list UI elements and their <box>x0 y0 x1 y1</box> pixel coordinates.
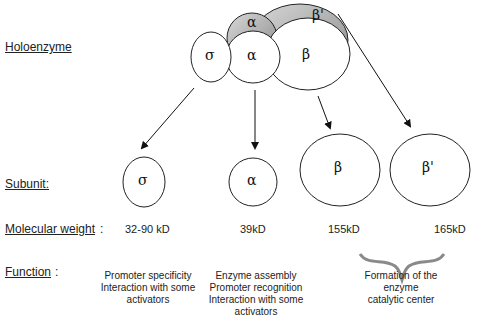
subunit-shapes <box>123 134 470 207</box>
holo-sigma-label: σ <box>205 47 215 63</box>
subunit-sigma-label: σ <box>138 172 148 188</box>
subunit-alpha-label: α <box>247 172 256 188</box>
function-alpha: Enzyme assembly Promoter recognition Int… <box>200 270 312 318</box>
weight-beta: 155kD <box>328 223 360 235</box>
arrow-sigma <box>142 88 194 148</box>
weight-sigma: 32-90 kD <box>125 223 170 235</box>
row-label-function-colon: : <box>55 265 58 279</box>
subunit-beta-prime-label: β' <box>422 159 434 175</box>
row-label-molecular-weight: Molecular weight <box>5 222 95 236</box>
function-beta-beta-prime: Formation of the enzyme catalytic center <box>345 270 457 306</box>
holo-beta-prime-label: β' <box>312 7 324 23</box>
arrow-beta-prime <box>338 14 410 126</box>
row-label-molecular-weight-colon: : <box>100 222 103 236</box>
subunit-beta-label: β <box>334 159 342 175</box>
row-label-holoenzyme: Holoenzyme <box>5 40 72 54</box>
holo-beta-label: β <box>302 46 310 62</box>
weight-beta-prime: 165kD <box>434 223 466 235</box>
row-label-function: Function <box>5 265 51 279</box>
holo-alpha-front-label: α <box>247 47 256 63</box>
function-sigma: Promoter specificity Interaction with so… <box>92 270 204 306</box>
arrow-beta <box>318 96 330 128</box>
row-label-subunit: Subunit: <box>5 177 49 191</box>
weight-alpha: 39kD <box>240 223 266 235</box>
holo-alpha-back-label: α <box>247 14 256 30</box>
